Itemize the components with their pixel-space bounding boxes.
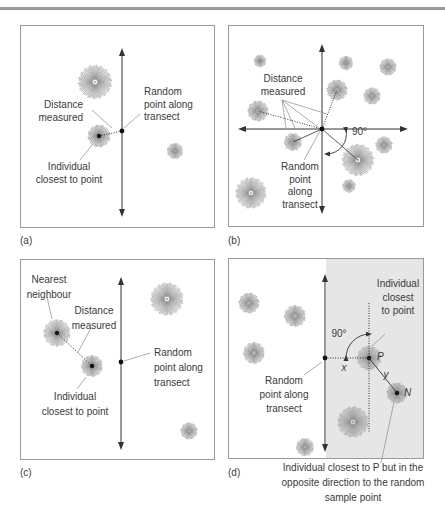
plant-icon [337, 406, 370, 439]
plant-icon [180, 422, 198, 440]
plant-icon [339, 56, 354, 71]
plant-icon [342, 179, 356, 193]
plant-centre [352, 421, 354, 423]
y-label-line: y [383, 369, 390, 380]
plant-centre [174, 150, 176, 152]
random-point-label-line: Random [144, 86, 182, 97]
angle-label-line: 90° [352, 126, 367, 137]
random-point-label-line: transect [266, 403, 302, 414]
individual-label-line: closest [382, 292, 413, 303]
plant-centre [259, 60, 261, 62]
individual-label-line: Individual [48, 161, 90, 172]
random-point-label-line: point along [144, 99, 193, 110]
plant-icon [379, 58, 397, 76]
caption-label-line: opposite direction to the random [282, 477, 425, 488]
caption-label-line: sample point [325, 492, 382, 503]
panel-label-b-line: (b) [228, 235, 240, 246]
caption-label: Individual closest to P but in theopposi… [282, 462, 425, 503]
panel-label-b: (b) [228, 235, 240, 246]
distance-label-line: measured [72, 320, 116, 331]
angle-label: 90° [331, 328, 346, 339]
distance-label-line: measured [261, 86, 305, 97]
x-label-line: x [341, 362, 348, 373]
plant-centre [371, 95, 373, 97]
distance-label-line: Distance [264, 73, 303, 84]
random-point-label-line: point along [260, 389, 309, 400]
random-point [323, 356, 328, 361]
caption-label-line: Individual closest to P but in the [283, 462, 424, 473]
random-point [120, 129, 125, 134]
N-label-line: N [404, 387, 412, 398]
panel-label-a: (a) [20, 235, 32, 246]
panel-label-c-line: (c) [20, 467, 32, 478]
individual-label-line: Individual [377, 278, 419, 289]
nearest-label-line: neighbour [27, 289, 72, 300]
point-centred-quarter-method-figure: Randompoint alongtransectDistancemeasure… [0, 0, 445, 517]
distance-label-line: Distance [44, 99, 83, 110]
plant-centre [383, 144, 385, 146]
individual-label-line: closest to point [42, 406, 109, 417]
plant-centre [387, 66, 389, 68]
plant-icon [167, 143, 184, 160]
P-label: P [377, 351, 384, 362]
plant-centre [94, 81, 96, 83]
random-point-label-line: point [289, 174, 311, 185]
angle-label-line: 90° [331, 328, 346, 339]
random-point-label-line: Random [265, 375, 303, 386]
plant-icon [375, 136, 393, 154]
random-point-label-line: Random [281, 161, 319, 172]
individual-label-line: Individual [54, 391, 96, 402]
panel-label-a-line: (a) [20, 235, 32, 246]
random-point-label-line: transect [154, 377, 190, 388]
distance-label-line: measured [39, 112, 83, 123]
plant-icon [77, 64, 113, 100]
P-label-line: P [377, 351, 384, 362]
random-point-label-line: transect [144, 111, 180, 122]
individual-label-line: closest to point [36, 174, 103, 185]
plant-icon [296, 438, 315, 457]
random-point-label-line: transect [282, 199, 318, 210]
distance-label-line: Distance [75, 305, 114, 316]
random-point-label-line: along [288, 186, 312, 197]
nearest-label-line: Nearest [31, 274, 66, 285]
plant-icon [284, 305, 307, 328]
plant-centre [166, 298, 168, 300]
panel-a-frame [21, 26, 215, 228]
plant-centre [345, 62, 347, 64]
random-point [320, 127, 325, 132]
plant-icon [254, 55, 267, 68]
plant-centre [188, 430, 190, 432]
plant-centre [248, 302, 250, 304]
random-point-label-line: Random [154, 347, 192, 358]
plant-icon [150, 282, 185, 317]
panel-label-d: (d) [228, 467, 240, 478]
plant-centre [253, 352, 255, 354]
y-label: y [383, 369, 390, 380]
plant-centre [348, 185, 350, 187]
plant-centre [304, 446, 306, 448]
panel-a [21, 26, 215, 228]
plant-centre [250, 192, 252, 194]
random-point-label-line: point along [154, 362, 203, 373]
panel-label-d-line: (d) [228, 467, 240, 478]
plant-icon [238, 292, 260, 314]
angle-label: 90° [352, 126, 367, 137]
plant-icon [243, 342, 266, 365]
N-label: N [404, 387, 412, 398]
plant-icon [363, 87, 381, 105]
individual-label: Individualclosestto point [377, 278, 419, 316]
individual-label-line: to point [382, 305, 415, 316]
plant-icon [235, 177, 268, 210]
random-point [119, 360, 124, 365]
distance-label: Distancemeasured [261, 73, 305, 97]
random-point-label: Randompoint alongtransect [260, 375, 309, 414]
plant-centre [294, 315, 296, 317]
panel-label-c: (c) [20, 467, 32, 478]
x-label: x [341, 362, 348, 373]
distance-label: Distancemeasured [39, 99, 84, 123]
